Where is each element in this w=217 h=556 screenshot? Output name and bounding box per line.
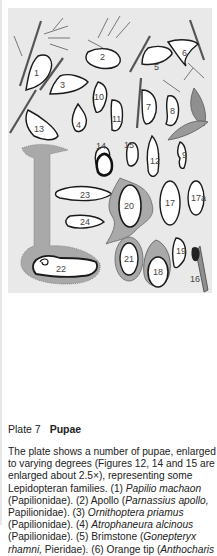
caption-text: (Papilionidae). (5) Brimstone (: [8, 531, 143, 542]
svg-text:11: 11: [112, 114, 121, 124]
svg-text:19: 19: [176, 246, 186, 256]
caption-text: (Papilionidae). (4): [8, 519, 91, 530]
svg-text:4: 4: [76, 120, 81, 130]
svg-text:16: 16: [190, 274, 200, 284]
species-name: Papilio machaon: [126, 483, 201, 494]
svg-text:15: 15: [124, 140, 134, 150]
caption-text: (Papilionidae). (2) Apollo (: [8, 495, 125, 506]
caption-text: Pieridae). (6) Orange tip (: [42, 544, 160, 555]
plate-caption-body: The plate shows a number of pupae, enlar…: [8, 446, 216, 556]
svg-text:18: 18: [153, 267, 163, 277]
species-name: Parnassius apollo,: [125, 495, 208, 506]
svg-text:13: 13: [34, 124, 44, 134]
species-name: Anthocharis: [160, 544, 214, 555]
svg-text:21: 21: [124, 254, 134, 264]
plate-title: Pupae: [50, 423, 82, 435]
svg-text:24: 24: [80, 217, 90, 227]
pupae-drawing: 1 2 3 4 5 6 7 8 9 10 11 12 13 14 15 16 1…: [8, 8, 212, 293]
svg-text:20: 20: [124, 201, 134, 211]
svg-text:10: 10: [94, 92, 104, 102]
svg-text:17: 17: [165, 198, 175, 208]
svg-text:14: 14: [96, 141, 106, 151]
svg-text:1: 1: [34, 68, 39, 78]
pupae-plate-illustration: 1 2 3 4 5 6 7 8 9 10 11 12 13 14 15 16 1…: [8, 8, 212, 293]
svg-text:5: 5: [154, 62, 159, 72]
svg-text:2: 2: [100, 52, 105, 62]
plate-label: Plate 7: [8, 423, 41, 435]
svg-text:12: 12: [150, 156, 160, 166]
svg-text:7: 7: [146, 102, 151, 112]
svg-text:6: 6: [182, 48, 187, 58]
species-name: Ornithoptera priamus: [88, 507, 184, 518]
svg-text:22: 22: [56, 264, 66, 274]
caption-text: Papilionidae). (3): [8, 507, 88, 518]
page-edge: [0, 0, 2, 525]
svg-text:23: 23: [80, 190, 90, 200]
svg-text:17a: 17a: [191, 193, 206, 203]
svg-text:8: 8: [170, 106, 175, 116]
svg-text:9: 9: [182, 150, 187, 160]
species-name: Atrophaneura alcinous: [91, 519, 193, 530]
plate-caption-title: Plate 7Pupae: [8, 423, 81, 435]
svg-text:3: 3: [60, 80, 65, 90]
